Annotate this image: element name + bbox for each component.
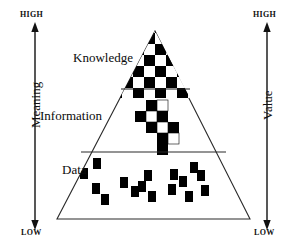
right-axis-high-label: HIGH <box>253 10 276 19</box>
left-axis-low-label: LOW <box>21 228 41 237</box>
information-tier-fill <box>135 100 179 155</box>
right-axis-low-label: LOW <box>254 228 274 237</box>
right-axis-arrow <box>263 22 270 230</box>
right-axis-title-value: Value <box>260 90 276 120</box>
diagram-canvas: HIGH LOW HIGH LOW Meaning Value Knowledg… <box>0 0 299 249</box>
tier-label-knowledge: Knowledge <box>73 50 133 66</box>
tier-label-data: Data <box>62 162 87 178</box>
dikw-pyramid-figure <box>0 0 299 249</box>
tier-label-information: Information <box>40 108 102 124</box>
data-tier-scatter <box>80 158 209 205</box>
left-axis-high-label: HIGH <box>20 10 43 19</box>
